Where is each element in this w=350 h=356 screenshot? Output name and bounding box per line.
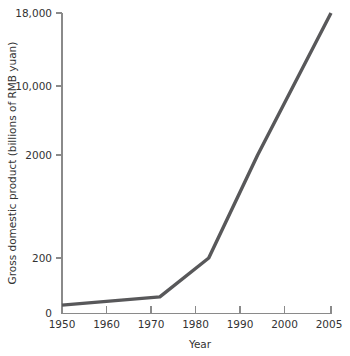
x-tick-label-1980: 1980 [182, 318, 209, 330]
gdp-line-chart: 18,000 10,000 2000 200 0 1950 1960 1970 … [0, 0, 350, 356]
y-tick-label-200: 200 [32, 252, 52, 264]
y-tick-label-18000: 18,000 [15, 7, 52, 19]
x-tick-label-2005: 2005 [316, 318, 343, 330]
gdp-series-line [62, 13, 331, 305]
y-tick-label-2000: 2000 [25, 149, 52, 161]
x-tick-label-1990: 1990 [227, 318, 254, 330]
x-tick-label-1970: 1970 [138, 318, 165, 330]
x-tick-label-1950: 1950 [49, 318, 76, 330]
x-tick-label-1960: 1960 [93, 318, 120, 330]
x-tick-label-2000: 2000 [271, 318, 298, 330]
y-axis-title: Gross domestic product (billions of RMB … [6, 42, 18, 285]
y-tick-label-10000: 10,000 [15, 80, 52, 92]
x-axis-title: Year [188, 338, 212, 350]
chart-canvas: 18,000 10,000 2000 200 0 1950 1960 1970 … [0, 0, 350, 356]
